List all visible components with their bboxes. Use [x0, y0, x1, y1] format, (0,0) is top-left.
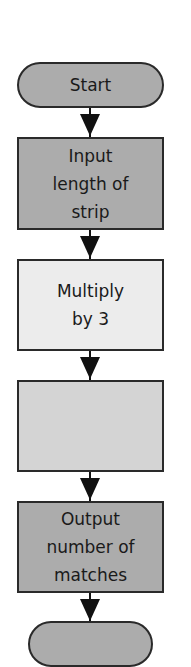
input-line-2: length of — [53, 170, 129, 198]
arrow-head-icon — [80, 478, 100, 500]
arrow-head-icon — [80, 357, 100, 379]
input-line-3: strip — [53, 198, 129, 226]
output-line-2: number of — [46, 533, 134, 561]
multiply-box: Multiply by 3 — [17, 259, 164, 351]
end-terminal — [28, 621, 153, 667]
output-box: Output number of matches — [17, 501, 164, 593]
output-line-1: Output — [46, 505, 134, 533]
start-label: Start — [70, 71, 112, 99]
multiply-line-1: Multiply — [57, 277, 124, 305]
arrow-head-icon — [80, 236, 100, 258]
blank-box — [17, 380, 164, 472]
arrow-head-icon — [80, 114, 100, 136]
start-terminal: Start — [17, 62, 164, 108]
input-line-1: Input — [53, 142, 129, 170]
input-length-box: Input length of strip — [17, 137, 164, 230]
output-line-3: matches — [46, 561, 134, 589]
multiply-line-2: by 3 — [57, 305, 124, 333]
arrow-head-icon — [80, 599, 100, 621]
